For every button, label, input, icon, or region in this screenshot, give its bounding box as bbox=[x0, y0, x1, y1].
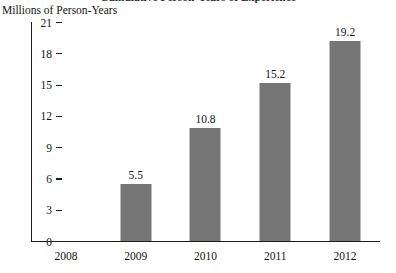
bar[interactable]: 5.5 bbox=[120, 184, 151, 241]
bar-chart: Cumulative Person-Years of Experience Mi… bbox=[0, 0, 396, 273]
y-axis-tick: 0 bbox=[56, 241, 62, 242]
y-axis-label: Millions of Person-Years bbox=[2, 4, 117, 17]
bar-group: 19.22012 bbox=[310, 22, 380, 241]
x-axis-tick-label: 2008 bbox=[54, 250, 77, 262]
bar-group: 2008 bbox=[31, 22, 101, 241]
chart-title: Cumulative Person-Years of Experience bbox=[0, 0, 396, 3]
plot-area: 036912151821 20085.5200910.8201015.22011… bbox=[31, 22, 380, 241]
bar-group: 5.52009 bbox=[101, 22, 171, 241]
x-axis-tick-label: 2010 bbox=[194, 250, 217, 262]
bar[interactable]: 15.2 bbox=[260, 83, 291, 242]
bar-group: 15.22011 bbox=[240, 22, 310, 241]
bar[interactable]: 19.2 bbox=[330, 41, 361, 241]
bar[interactable]: 10.8 bbox=[190, 128, 221, 241]
bar-value-label: 15.2 bbox=[265, 68, 285, 80]
bar-value-label: 10.8 bbox=[195, 113, 215, 125]
bar-group: 10.82010 bbox=[171, 22, 241, 241]
bar-value-label: 19.2 bbox=[335, 26, 355, 38]
bar-value-label: 5.5 bbox=[129, 169, 143, 181]
x-axis-tick-label: 2012 bbox=[334, 250, 357, 262]
x-axis-tick-label: 2011 bbox=[264, 250, 287, 262]
x-axis-tick-label: 2009 bbox=[124, 250, 147, 262]
